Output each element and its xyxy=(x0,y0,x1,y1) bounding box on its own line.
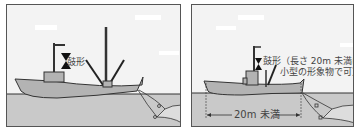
trawler-illustration xyxy=(7,5,181,127)
cloud xyxy=(238,15,264,20)
sea xyxy=(7,94,181,127)
cabin xyxy=(44,72,64,82)
boom xyxy=(268,65,276,85)
cloud xyxy=(216,26,236,30)
cloud xyxy=(340,43,354,47)
shape-label-line2: 小型の形象物で可） xyxy=(280,67,354,77)
diagram-panel-large-vessel: 鼓形 xyxy=(6,4,181,127)
length-label: 20m 未満 xyxy=(234,110,280,120)
boom xyxy=(86,60,103,85)
hourglass-shape-icon xyxy=(255,58,262,64)
cabin xyxy=(246,71,258,85)
cloud xyxy=(35,25,57,30)
diagram-panel-small-vessel: 鼓形（長さ 20m 未満は 小型の形象物で可） 20m 未満 xyxy=(191,4,354,127)
cloud xyxy=(135,15,161,20)
cloud xyxy=(159,51,179,55)
shape-label-line1: 鼓形（長さ 20m 未満は xyxy=(263,56,354,66)
shape-label: 鼓形 xyxy=(67,57,85,67)
